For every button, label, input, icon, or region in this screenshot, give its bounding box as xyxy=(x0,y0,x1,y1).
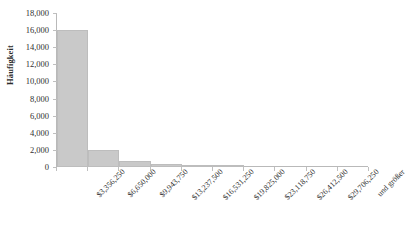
y-axis-tick-label: 12,000 xyxy=(26,60,49,69)
x-axis-tick-label: $6,650,000 xyxy=(127,168,158,199)
x-axis-tick-label: $16,531,250 xyxy=(222,168,256,202)
plot-area: 18,00016,00014,00012,00010,0008,0006,000… xyxy=(56,13,368,167)
y-axis-tick-label: 2,000 xyxy=(30,146,49,155)
y-axis-tick-label: 0 xyxy=(45,163,49,172)
y-axis-tick-label: 14,000 xyxy=(26,43,49,52)
y-axis-title: Häufigkeit xyxy=(5,19,15,111)
bar xyxy=(57,30,88,167)
x-axis-labels: $3,356,250$6,650,000$9,943,750$13,237,50… xyxy=(56,168,368,225)
x-axis-tick-label: $26,412,500 xyxy=(315,168,349,202)
x-axis-tick-label: $29,706,250 xyxy=(347,168,381,202)
y-axis-tick-label: 8,000 xyxy=(30,94,49,103)
x-axis-tick xyxy=(368,167,369,171)
bar xyxy=(182,165,213,167)
bar xyxy=(119,161,150,167)
bars-layer xyxy=(57,13,368,167)
bar xyxy=(88,150,119,167)
y-axis-tick-label: 18,000 xyxy=(26,9,49,18)
y-axis-tick-label: 16,000 xyxy=(26,26,49,35)
x-axis-tick-label: und größer xyxy=(376,168,406,198)
y-axis-tick-label: 6,000 xyxy=(30,111,49,120)
y-axis-tick-label: 10,000 xyxy=(26,77,49,86)
y-axis-tick-label: 4,000 xyxy=(30,129,49,138)
x-axis-tick-label: $13,237,500 xyxy=(191,168,225,202)
x-axis-tick-label: $23,118,750 xyxy=(284,168,318,202)
x-axis-tick-label: $3,356,250 xyxy=(96,168,127,199)
x-axis-tick-label: $19,825,000 xyxy=(253,168,287,202)
bar xyxy=(151,164,182,167)
x-axis-tick-label: $9,943,750 xyxy=(158,168,189,199)
